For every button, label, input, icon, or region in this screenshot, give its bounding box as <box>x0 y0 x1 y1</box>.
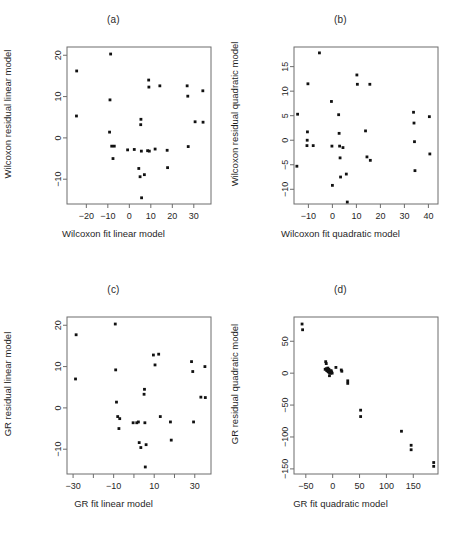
data-point <box>331 372 334 375</box>
panel-d-xlabel: GR fit quadratic model <box>227 498 454 509</box>
data-point <box>428 115 431 118</box>
data-point <box>114 323 117 326</box>
y-tick-label: 0 <box>53 135 63 140</box>
data-point <box>152 354 155 357</box>
x-tick-label: 40 <box>423 211 433 221</box>
y-tick-label: −150 <box>280 459 290 479</box>
y-tick-label: 5 <box>280 113 290 118</box>
panel-b: (b) Wilcoxon residual quadratic model −1… <box>227 0 454 270</box>
data-point <box>301 323 304 326</box>
x-tick-label: 0 <box>127 211 132 221</box>
x-tick-label: −20 <box>79 211 94 221</box>
data-point <box>318 51 321 54</box>
data-point <box>413 122 416 125</box>
data-point <box>108 131 111 134</box>
data-point <box>118 427 121 430</box>
data-point <box>187 145 190 148</box>
data-point <box>412 111 415 114</box>
data-point <box>356 83 359 86</box>
data-point <box>366 156 369 159</box>
data-point <box>110 145 113 148</box>
data-point <box>133 148 136 151</box>
data-point <box>145 443 148 446</box>
panel-b-xlabel: Wilcoxon fit quadratic model <box>227 228 454 239</box>
x-tick-label: −10 <box>301 211 316 221</box>
data-point <box>143 173 146 176</box>
x-tick-label: 20 <box>167 211 177 221</box>
panel-a-xlabel: Wilcoxon fit linear model <box>0 228 227 239</box>
data-point <box>296 113 299 116</box>
data-point <box>112 157 115 160</box>
data-point <box>140 118 143 121</box>
data-point <box>204 396 207 399</box>
data-point <box>400 430 403 433</box>
data-point <box>328 374 331 377</box>
x-tick-label: 10 <box>149 481 159 491</box>
x-tick-label: 0 <box>330 211 335 221</box>
y-tick-label: 20 <box>53 320 63 330</box>
data-point <box>147 86 150 89</box>
plot-frame <box>294 47 438 204</box>
data-point <box>114 368 117 371</box>
data-point <box>139 175 142 178</box>
data-point <box>148 150 151 153</box>
data-point <box>194 120 197 123</box>
data-point <box>143 421 146 424</box>
x-tick-label: 100 <box>379 481 394 491</box>
data-point <box>330 100 333 103</box>
data-point <box>201 89 204 92</box>
data-point <box>143 388 146 391</box>
data-point <box>355 74 358 77</box>
plot-frame <box>294 317 438 474</box>
panel-c-xlabel: GR fit linear model <box>0 498 227 509</box>
data-point <box>295 165 298 168</box>
x-tick-label: 30 <box>190 481 200 491</box>
data-point <box>368 83 371 86</box>
y-tick-label: −100 <box>280 427 290 447</box>
plot-frame <box>67 317 211 474</box>
x-tick-label: 10 <box>351 211 361 221</box>
data-point <box>342 146 345 149</box>
data-point <box>410 448 413 451</box>
x-tick-label: 10 <box>146 211 156 221</box>
data-point <box>369 159 372 162</box>
y-tick-label: 15 <box>280 62 290 72</box>
data-point <box>359 415 362 418</box>
data-point <box>186 84 189 87</box>
data-point <box>331 184 334 187</box>
y-tick-label: 50 <box>280 336 290 346</box>
data-point <box>166 149 169 152</box>
x-tick-label: 0 <box>330 481 335 491</box>
data-point <box>75 70 78 73</box>
y-tick-label: 0 <box>280 138 290 143</box>
y-tick-label: −10 <box>53 172 63 187</box>
data-point <box>312 144 315 147</box>
data-point <box>432 461 435 464</box>
data-point <box>307 82 310 85</box>
data-point <box>204 365 207 368</box>
data-point <box>159 415 162 418</box>
y-tick-label: −10 <box>53 442 63 457</box>
data-point <box>202 121 205 124</box>
data-point <box>339 176 342 179</box>
x-tick-label: −50 <box>298 481 313 491</box>
data-point <box>109 53 112 56</box>
data-point <box>169 421 172 424</box>
data-point <box>144 466 147 469</box>
panel-d: (d) GR residual quadratic model −5005010… <box>227 270 454 540</box>
data-point <box>126 148 129 151</box>
y-tick-label: 20 <box>53 50 63 60</box>
data-point <box>147 79 150 82</box>
data-point <box>346 201 349 204</box>
data-point <box>154 148 157 151</box>
data-point <box>432 465 435 468</box>
data-point <box>410 444 413 447</box>
data-point <box>345 173 348 176</box>
data-point <box>325 362 328 365</box>
x-tick-label: 50 <box>355 481 365 491</box>
data-point <box>157 353 160 356</box>
y-tick-label: 0 <box>280 371 290 376</box>
data-point <box>139 123 142 126</box>
x-tick-label: 30 <box>189 211 199 221</box>
data-point <box>335 366 338 369</box>
